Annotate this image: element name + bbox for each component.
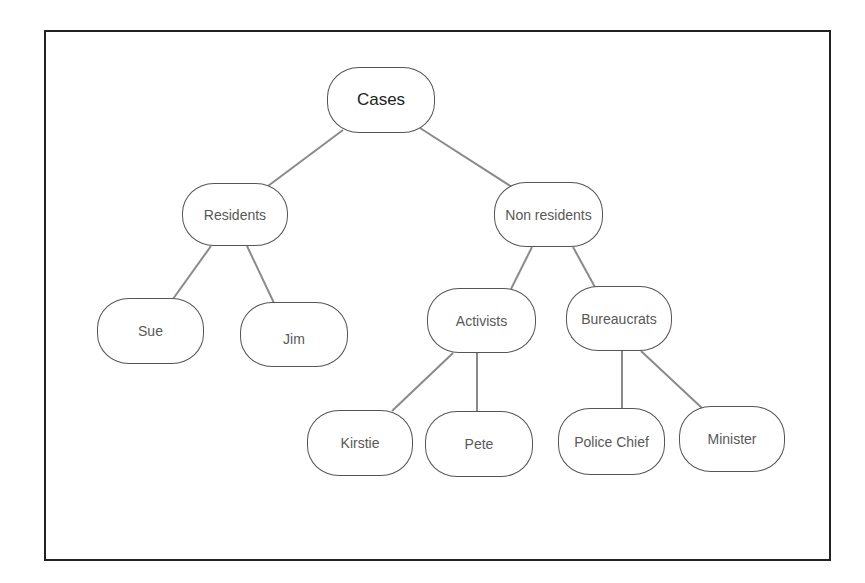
- node-sue: Sue: [97, 298, 204, 364]
- node-bureaucrats: Bureaucrats: [566, 286, 672, 351]
- edge-bureaucrats-minister: [641, 351, 703, 409]
- node-label: Non residents: [505, 207, 591, 223]
- node-label: Kirstie: [341, 435, 380, 451]
- node-label: Minister: [707, 431, 756, 447]
- node-non-residents: Non residents: [494, 182, 603, 247]
- node-police-chief: Police Chief: [558, 408, 665, 475]
- edge-residents-sue: [173, 246, 211, 299]
- node-cases: Cases: [327, 67, 435, 133]
- node-label: Jim: [283, 331, 305, 347]
- node-pete: Pete: [425, 411, 533, 477]
- node-kirstie: Kirstie: [307, 410, 413, 476]
- edge-activists-kirstie: [392, 353, 453, 411]
- edge-non-residents-activists: [511, 247, 532, 289]
- node-label: Cases: [357, 90, 405, 110]
- edge-cases-non-residents: [420, 128, 512, 187]
- node-label: Police Chief: [574, 434, 649, 450]
- node-jim: Jim: [240, 302, 348, 367]
- node-label: Activists: [456, 313, 507, 329]
- edge-non-residents-bureaucrats: [573, 247, 596, 289]
- node-label: Bureaucrats: [581, 311, 656, 327]
- node-minister: Minister: [679, 406, 785, 472]
- node-label: Residents: [204, 207, 266, 223]
- edge-residents-jim: [247, 246, 274, 303]
- edge-cases-residents: [268, 130, 343, 186]
- node-residents: Residents: [182, 183, 288, 246]
- tree-diagram: Cases Residents Non residents Sue Jim Ac…: [0, 0, 865, 583]
- node-activists: Activists: [427, 288, 536, 353]
- node-label: Sue: [138, 323, 163, 339]
- node-label: Pete: [465, 436, 494, 452]
